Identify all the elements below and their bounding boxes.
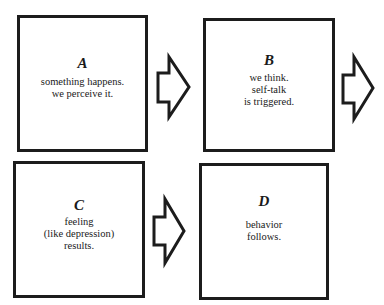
box-c-text: feeling (like depression) results. xyxy=(16,216,142,252)
box-c-letter: C xyxy=(16,197,142,213)
box-d-text: behavior follows. xyxy=(202,219,326,243)
block-arrow-right-icon xyxy=(146,193,192,269)
box-a: A something happens. we perceive it. xyxy=(17,15,148,152)
block-arrow-right-icon xyxy=(336,50,382,126)
block-arrow-right-icon xyxy=(150,50,196,124)
box-b-text: we think. self-talk is triggered. xyxy=(206,72,332,108)
box-b: B we think. self-talk is triggered. xyxy=(203,18,335,152)
box-a-text: something happens. we perceive it. xyxy=(20,76,145,100)
box-d: D behavior follows. xyxy=(199,163,329,300)
box-a-letter: A xyxy=(20,55,145,71)
box-c: C feeling (like depression) results. xyxy=(13,161,145,298)
box-b-letter: B xyxy=(206,52,332,68)
box-d-letter: D xyxy=(202,193,326,209)
